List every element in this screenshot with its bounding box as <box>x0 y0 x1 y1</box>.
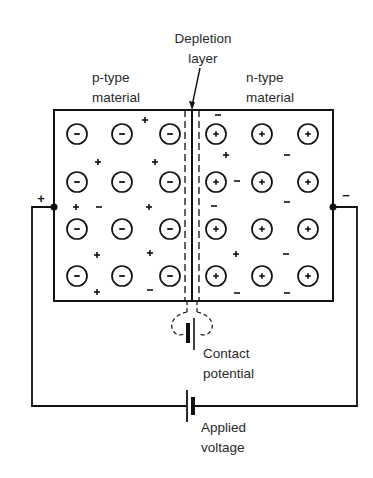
hole-carrier-plus <box>142 117 148 123</box>
acceptor-ion-negative <box>67 219 87 239</box>
n-region-donor-ions <box>206 124 318 286</box>
acceptor-ion-negative <box>112 124 132 144</box>
svg-text:Depletion: Depletion <box>174 31 231 46</box>
left-terminal-plus: + <box>37 191 45 206</box>
acceptor-ion-negative <box>160 219 180 239</box>
p-type-label: p-type material <box>92 70 140 105</box>
hole-carrier-plus <box>233 251 239 257</box>
semiconductor-block <box>54 110 333 301</box>
donor-ion-positive <box>298 219 318 239</box>
svg-text:Contact: Contact <box>203 346 250 361</box>
pn-junction-diagram: Depletion layer p-type material n-type m… <box>0 0 373 478</box>
donor-ion-positive <box>252 266 272 286</box>
acceptor-ion-negative <box>67 266 87 286</box>
donor-ion-positive <box>298 266 318 286</box>
donor-ion-positive <box>298 124 318 144</box>
contact-potential-battery-icon <box>186 318 194 350</box>
svg-text:material: material <box>246 90 294 105</box>
n-type-label: n-type material <box>246 70 294 105</box>
acceptor-ion-negative <box>112 172 132 192</box>
svg-text:material: material <box>92 90 140 105</box>
applied-voltage-label: Applied voltage <box>201 420 246 455</box>
hole-carrier-plus <box>94 289 100 295</box>
donor-ion-positive <box>206 172 226 192</box>
hole-carrier-plus <box>147 250 153 256</box>
svg-text:n-type: n-type <box>246 70 284 85</box>
donor-ion-positive <box>298 172 318 192</box>
applied-voltage-battery-icon <box>187 390 195 422</box>
donor-ion-positive <box>206 219 226 239</box>
acceptor-ion-negative <box>67 124 87 144</box>
svg-text:Applied: Applied <box>201 420 246 435</box>
hole-carrier-plus <box>94 252 100 258</box>
donor-ion-positive <box>252 172 272 192</box>
donor-ion-positive <box>252 124 272 144</box>
hole-carrier-plus <box>95 159 101 165</box>
contact-potential-leads <box>172 301 213 335</box>
contact-potential-label: Contact potential <box>203 346 254 381</box>
hole-carrier-plus <box>73 204 79 210</box>
hole-carrier-plus <box>223 152 229 158</box>
svg-text:voltage: voltage <box>201 440 245 455</box>
donor-ion-positive <box>206 266 226 286</box>
depletion-layer-label: Depletion layer <box>174 31 231 66</box>
acceptor-ion-negative <box>67 172 87 192</box>
acceptor-ion-negative <box>160 266 180 286</box>
svg-text:potential: potential <box>203 366 254 381</box>
donor-ion-positive <box>206 124 226 144</box>
acceptor-ion-negative <box>112 219 132 239</box>
donor-ion-positive <box>252 219 272 239</box>
p-region-acceptor-ions <box>67 124 180 286</box>
hole-carrier-plus <box>152 159 158 165</box>
right-terminal-minus: − <box>342 188 350 203</box>
svg-text:layer: layer <box>188 51 218 66</box>
svg-text:p-type: p-type <box>92 70 130 85</box>
acceptor-ion-negative <box>160 124 180 144</box>
acceptor-ion-negative <box>160 172 180 192</box>
depletion-pointer-arrow <box>192 68 200 106</box>
hole-carrier-plus <box>146 204 152 210</box>
arrow-head-icon <box>189 101 195 110</box>
acceptor-ion-negative <box>112 266 132 286</box>
